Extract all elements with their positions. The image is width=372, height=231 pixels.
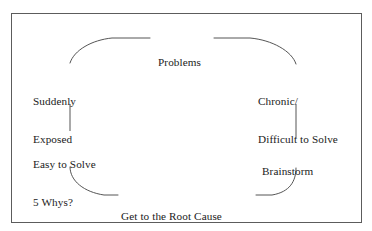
node-label-problems: Problems <box>158 31 201 94</box>
cycle-diagram-figure: Problems Suddenly Exposed Chronic/ Diffi… <box>0 0 372 231</box>
node-label-suddenly-exposed-line-1: Suddenly <box>33 95 76 108</box>
node-label-get-to-the-root-cause-line-1: Get to the Root Cause <box>117 210 226 223</box>
node-label-brainstorm: Brainstorm <box>262 140 313 203</box>
node-label-problems-line-1: Problems <box>158 56 201 69</box>
node-label-easy-to-solve-5-whys-line-2: 5 Whys? <box>33 196 96 209</box>
node-label-get-to-the-root-cause: Get to the Root Cause and Develop Respon… <box>117 185 226 231</box>
node-label-chronic-difficult-to-solve-line-1: Chronic/ <box>258 95 338 108</box>
node-label-easy-to-solve-5-whys-line-1: Easy to Solve <box>33 158 96 171</box>
node-label-brainstorm-line-1: Brainstorm <box>262 165 313 178</box>
node-label-easy-to-solve-5-whys: Easy to Solve 5 Whys? <box>33 133 96 231</box>
